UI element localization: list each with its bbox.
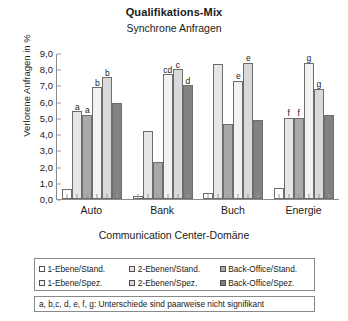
- y-tick-mark: [57, 200, 61, 201]
- x-tick-mark: [117, 194, 118, 198]
- x-tick-mark: [258, 194, 259, 198]
- legend-item[interactable]: Back-Office/Spez.: [220, 276, 310, 290]
- bar-group: ee: [198, 54, 269, 199]
- x-category-label: Auto: [56, 204, 127, 216]
- y-tick-label: 9,0: [40, 49, 53, 59]
- bar[interactable]: cd: [163, 74, 173, 199]
- x-category-label: Bank: [127, 204, 198, 216]
- bar-significance-letter: f: [288, 109, 290, 118]
- chart-subtitle: Synchrone Anfragen: [0, 22, 348, 34]
- bar-significance-letter: a: [75, 103, 80, 112]
- y-tick-label: 7,0: [40, 82, 53, 92]
- bar[interactable]: [223, 124, 233, 199]
- bar[interactable]: f: [294, 118, 304, 199]
- chart-title: Qualifikations-Mix: [0, 6, 348, 18]
- x-tick-mark: [308, 194, 309, 198]
- bar[interactable]: b: [92, 87, 102, 199]
- bar-significance-letter: e: [236, 72, 241, 81]
- y-tick-label: 6,0: [40, 98, 53, 108]
- x-tick-mark: [328, 194, 329, 198]
- x-tick-mark: [87, 194, 88, 198]
- x-tick-mark: [298, 194, 299, 198]
- legend-item[interactable]: 1-Ebene/Spez.: [39, 276, 129, 290]
- x-category-label: Buch: [198, 204, 269, 216]
- bar[interactable]: c: [173, 69, 183, 199]
- y-tick-label: 0,0: [40, 195, 53, 205]
- bar[interactable]: d: [183, 85, 193, 199]
- x-axis-label: Communication Center-Domäne: [0, 229, 348, 241]
- bar[interactable]: f: [284, 118, 294, 199]
- bar[interactable]: [253, 120, 263, 199]
- bar-significance-letter: g: [306, 54, 311, 63]
- legend-swatch: [39, 266, 45, 272]
- y-tick-label: 4,0: [40, 130, 53, 140]
- bar[interactable]: e: [243, 63, 253, 199]
- x-tick-mark: [228, 194, 229, 198]
- legend-label: 2-Ebenen/Stand.: [138, 263, 200, 276]
- bar[interactable]: a: [72, 111, 82, 199]
- bar[interactable]: g: [314, 89, 324, 199]
- legend-label: Back-Office/Spez.: [228, 277, 294, 290]
- bar[interactable]: [62, 189, 72, 199]
- x-tick-mark: [208, 194, 209, 198]
- legend-label: 2-Ebenen/Spez.: [138, 277, 198, 290]
- bar[interactable]: [112, 103, 122, 199]
- bar-groups: aabbcdcdeeffgg: [57, 54, 339, 199]
- bar-significance-letter: g: [316, 80, 321, 89]
- legend-swatch: [39, 280, 45, 286]
- bar-significance-letter: d: [185, 77, 190, 86]
- bar-group: ffgg: [269, 54, 340, 199]
- bar[interactable]: [324, 115, 334, 199]
- bar[interactable]: [213, 64, 223, 199]
- bar[interactable]: e: [233, 81, 243, 199]
- bar[interactable]: [203, 193, 213, 199]
- chart-figure: Qualifikations-Mix Synchrone Anfragen Ve…: [0, 0, 348, 321]
- bar-significance-letter: e: [246, 54, 251, 63]
- x-tick-mark: [278, 194, 279, 198]
- y-tick-label: 3,0: [40, 147, 53, 157]
- bar[interactable]: a: [82, 115, 92, 199]
- x-tick-mark: [77, 194, 78, 198]
- x-tick-mark: [288, 194, 289, 198]
- x-tick-mark: [97, 194, 98, 198]
- x-tick-mark: [218, 194, 219, 198]
- bar-significance-letter: b: [105, 69, 110, 78]
- legend-swatch: [129, 280, 135, 286]
- x-tick-mark: [157, 194, 158, 198]
- x-tick-mark: [318, 194, 319, 198]
- bar-significance-letter: a: [85, 106, 90, 115]
- legend-swatch: [129, 266, 135, 272]
- y-axis-label: Verlorene Anfragen in %: [21, 11, 32, 161]
- bar-group: aabb: [57, 54, 128, 199]
- bar[interactable]: [153, 162, 163, 199]
- bar-significance-letter: cd: [163, 66, 172, 75]
- bar[interactable]: b: [102, 77, 112, 199]
- legend-item[interactable]: 1-Ebene/Stand.: [39, 262, 129, 276]
- legend-item[interactable]: Back-Office/Stand.: [220, 262, 310, 276]
- bar[interactable]: g: [304, 63, 314, 199]
- legend-item[interactable]: 2-Ebenen/Stand.: [129, 262, 219, 276]
- legend-label: 1-Ebene/Stand.: [48, 263, 106, 276]
- plot-area: 0,01,02,03,04,05,06,07,08,09,0 aabbcdcde…: [56, 54, 339, 200]
- legend-label: Back-Office/Stand.: [228, 263, 297, 276]
- x-tick-mark: [67, 194, 68, 198]
- significance-note: a, b,c, d, e, f, g: Unterschiede sind pa…: [34, 296, 315, 312]
- y-tick-label: 2,0: [40, 163, 53, 173]
- y-tick-label: 1,0: [40, 179, 53, 189]
- chart-legend: 1-Ebene/Stand.2-Ebenen/Stand.Back-Office…: [34, 258, 315, 291]
- bar-group: cdcd: [128, 54, 199, 199]
- bar-significance-letter: c: [176, 61, 180, 70]
- x-tick-mark: [187, 194, 188, 198]
- bar[interactable]: [274, 188, 284, 199]
- x-tick-mark: [248, 194, 249, 198]
- x-category-label: Energie: [268, 204, 339, 216]
- bar[interactable]: [143, 131, 153, 199]
- x-tick-mark: [167, 194, 168, 198]
- bar-significance-letter: b: [95, 79, 100, 88]
- bar[interactable]: [133, 196, 143, 199]
- legend-item[interactable]: 2-Ebenen/Spez.: [129, 276, 219, 290]
- legend-swatch: [220, 266, 226, 272]
- x-tick-mark: [107, 194, 108, 198]
- y-tick-label: 5,0: [40, 114, 53, 124]
- bar-significance-letter: f: [298, 109, 300, 118]
